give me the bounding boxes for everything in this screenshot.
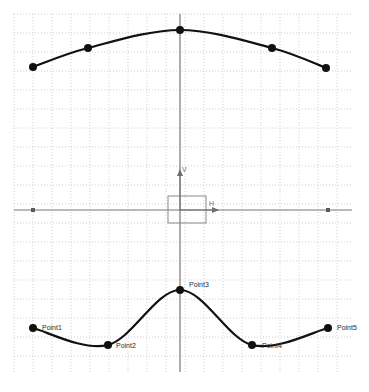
data-point-marker[interactable] [248, 341, 256, 349]
axis-endpoint-dot-left[interactable] [31, 208, 35, 212]
data-point-marker[interactable] [29, 63, 37, 71]
data-point-marker[interactable] [268, 44, 276, 52]
plot-canvas[interactable]: V H Point1Point2Point3Point4Point5 [0, 0, 369, 392]
data-point-marker[interactable] [324, 324, 332, 332]
data-point-marker[interactable] [84, 44, 92, 52]
data-point-marker[interactable] [322, 64, 330, 72]
data-point-label: Point2 [116, 342, 136, 349]
data-point-marker[interactable] [104, 341, 112, 349]
vertical-axis-label: V [182, 166, 187, 173]
plot-svg[interactable]: V H Point1Point2Point3Point4Point5 [0, 0, 369, 392]
data-point-marker[interactable] [176, 286, 184, 294]
axis-endpoint-dot-right[interactable] [326, 208, 330, 212]
horizontal-axis-label: H [209, 200, 214, 207]
data-point-marker[interactable] [29, 324, 37, 332]
data-point-marker[interactable] [176, 26, 184, 34]
data-point-label: Point3 [189, 281, 209, 288]
data-point-label: Point5 [337, 324, 357, 331]
data-point-label: Point1 [42, 324, 62, 331]
data-point-label: Point4 [262, 342, 282, 349]
